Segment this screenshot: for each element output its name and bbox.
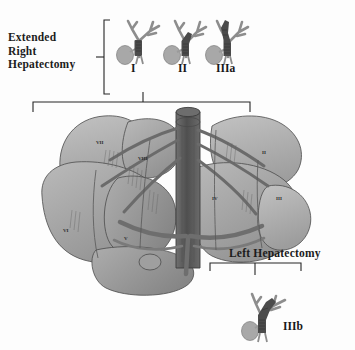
figure-canvas: Extended Right Hepatectomy Left Hepatect… [0,0,355,350]
label-line-3: Hepatectomy [8,58,100,72]
bracket-left-hepatectomy [210,263,301,275]
liver-segment-label-v: V [124,236,128,241]
type-label-IIIb: IIIb [283,320,303,332]
biliary-icon-type-IIIa [206,20,249,65]
label-left-hepatectomy: Left Hepatectomy [229,247,321,259]
bracket-liver-span [33,92,250,112]
liver-segment-label-iv: IV [212,196,218,201]
liver-illustration [42,107,311,295]
tumor-region-type-IIIb [258,298,276,333]
biliary-icon-type-IIIb [242,294,286,342]
liver-gallbladder [139,254,161,270]
gallbladder-icon [242,322,259,341]
label-extended-right-hepatectomy: Extended Right Hepatectomy [8,31,100,72]
liver-segment-label-iii: III [276,196,282,201]
biliary-icon-type-I [117,21,160,65]
liver-segment-label-vii: VII [96,140,104,145]
liver-segment-label-vi: VI [63,228,69,233]
liver-segment-label-viii: VIII [138,156,147,161]
biliary-icon-type-II [164,21,207,65]
type-label-IIIa: IIIa [216,62,235,74]
type-label-II: II [178,62,187,74]
label-line-2: Right [8,45,100,59]
label-line-1: Extended [8,31,100,45]
type-label-I: I [131,62,135,74]
liver-segment-label-ii: II [262,150,266,155]
